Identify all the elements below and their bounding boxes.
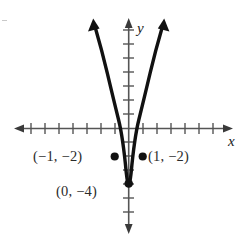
x-axis-arrow-left xyxy=(14,125,24,133)
point-marker-right xyxy=(139,152,147,160)
x-axis xyxy=(14,123,233,134)
y-axis-arrow-top xyxy=(125,18,133,28)
y-axis-label: y xyxy=(135,20,144,36)
point-marker-left xyxy=(111,152,119,160)
annotation-left-point: (−1, −2) xyxy=(33,148,82,165)
parabola-figure: y x (−1, −2) (1, −2) (0, −4) xyxy=(0,0,247,239)
y-axis xyxy=(123,18,134,234)
parabola-arrow-right xyxy=(158,19,170,32)
annotation-vertex: (0, −4) xyxy=(56,183,97,200)
x-axis-label: x xyxy=(227,133,235,149)
parabola-arrow-left xyxy=(88,19,100,32)
coordinate-plane: y x xyxy=(0,0,247,239)
x-axis-arrow-right xyxy=(223,125,233,133)
annotation-right-point: (1, −2) xyxy=(148,148,189,165)
point-marker-vertex xyxy=(124,179,133,188)
y-axis-arrow-bottom xyxy=(125,224,133,234)
